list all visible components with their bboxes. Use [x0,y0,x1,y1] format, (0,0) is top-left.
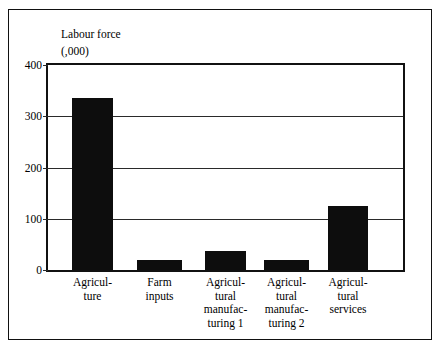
y-tick-label-400: 400 [25,59,42,71]
x-axis-label-1: Farminputs [145,276,173,303]
y-tick-label-300: 300 [25,110,42,122]
y-tick-mark-400 [43,65,48,66]
x-axis-label-line: manufac- [204,303,247,317]
x-axis-label-line: tural [204,290,247,304]
x-axis-label-line: ture [73,290,112,304]
bar-1 [137,260,182,270]
x-axis-label-line: services [329,303,368,317]
x-axis-label-line: turing 1 [204,317,247,331]
x-axis-label-line: Agricul- [265,276,308,290]
x-axis-label-line: Agricul- [329,276,368,290]
x-axis-label-4: Agricul-turalservices [329,276,368,317]
bar-0 [72,98,113,270]
x-axis-label-line: turing 2 [265,317,308,331]
x-axis-label-line: Agricul- [73,276,112,290]
y-tick-label-0: 0 [36,264,42,276]
x-axis-label-0: Agricul-ture [73,276,112,303]
y-tick-label-200: 200 [25,162,42,174]
x-axis-label-line: Farm [145,276,173,290]
x-axis-label-line: inputs [145,290,173,304]
bar-2 [205,251,246,270]
y-tick-mark-200 [43,168,48,169]
bar-4 [328,206,368,270]
y-tick-mark-0 [43,270,48,271]
y-tick-label-100: 100 [25,213,42,225]
bar-3 [264,260,309,270]
x-axis-label-line: manufac- [265,303,308,317]
y-tick-mark-300 [43,116,48,117]
x-axis-label-line: Agricul- [204,276,247,290]
plot-area: 0100200300400Agricul-tureFarminputsAgric… [46,63,405,272]
x-axis-label-line: tural [329,290,368,304]
y-axis-title-line-2: (,000) [61,43,89,59]
x-axis-label-line: tural [265,290,308,304]
y-tick-mark-100 [43,219,48,220]
x-axis-label-2: Agricul-turalmanufac-turing 1 [204,276,247,330]
x-axis-label-3: Agricul-turalmanufac-turing 2 [265,276,308,330]
y-axis-title-line-1: Labour force [61,26,121,42]
chart-figure: Labour force (,000) 0100200300400Agricul… [8,9,432,340]
